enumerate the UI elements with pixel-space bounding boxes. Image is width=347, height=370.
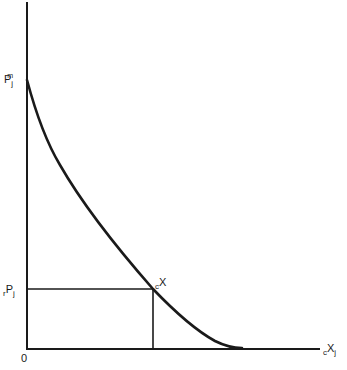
max-price-sup: m <box>7 72 13 79</box>
x-axis-label-pre: c <box>323 348 327 357</box>
reference-price-label: rPj <box>3 284 15 295</box>
reference-price-pre: r <box>3 289 6 298</box>
x-axis-label: cXj <box>323 343 336 354</box>
point-label-main: X <box>159 276 166 288</box>
x-axis-label-sub: j <box>334 348 336 357</box>
reference-price-main: P <box>6 283 13 295</box>
reference-price-sub: j <box>13 289 15 298</box>
max-price-label: Pjm <box>4 74 13 85</box>
point-label-pre: c <box>155 282 159 291</box>
diagram-canvas <box>0 0 347 370</box>
point-label: cX <box>155 277 166 288</box>
origin-label: 0 <box>21 353 27 364</box>
demand-curve <box>27 80 242 348</box>
max-price-sub: j <box>11 79 13 88</box>
